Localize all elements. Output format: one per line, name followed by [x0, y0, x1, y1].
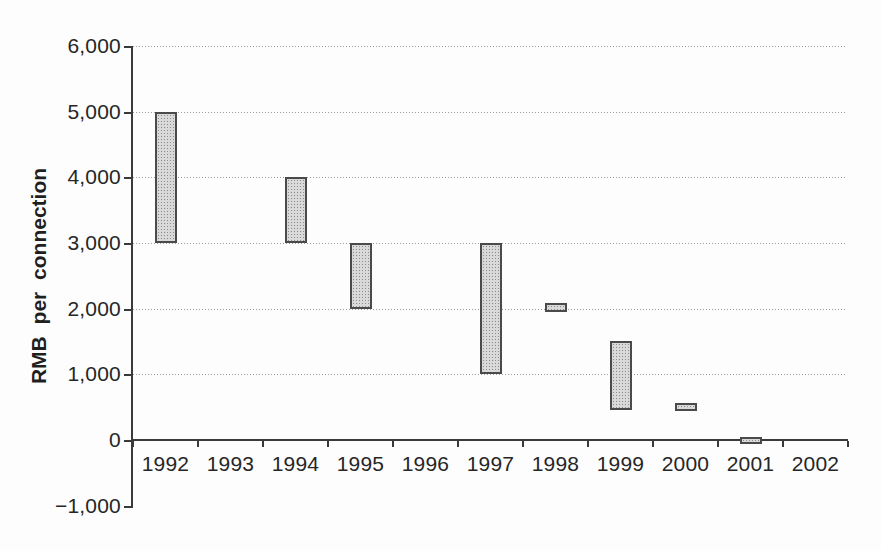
gridline-1000 — [133, 374, 847, 375]
y-tick-0 — [124, 440, 131, 442]
x-tick-2 — [262, 441, 264, 447]
x-tick-label-2002: 2002 — [783, 452, 848, 476]
bar-1995 — [350, 243, 372, 309]
x-tick-label-1997: 1997 — [458, 452, 523, 476]
x-tick-label-2000: 2000 — [653, 452, 718, 476]
bar-1992 — [155, 112, 177, 243]
bar-1998 — [545, 303, 567, 312]
bar-1999 — [610, 341, 632, 410]
y-tick-label-6000: 6,000 — [25, 34, 121, 58]
bar-2001 — [740, 437, 762, 444]
x-tick-label-1996: 1996 — [393, 452, 458, 476]
x-tick-3 — [327, 441, 329, 447]
bar-1997 — [480, 243, 502, 374]
x-tick-label-1998: 1998 — [523, 452, 588, 476]
x-tick-9 — [717, 441, 719, 447]
y-tick-5000 — [124, 112, 131, 114]
gridline-6000 — [133, 46, 847, 47]
x-tick-label-1992: 1992 — [133, 452, 198, 476]
y-tick-2000 — [124, 309, 131, 311]
x-tick-label-1995: 1995 — [328, 452, 393, 476]
chart-plot-area: −1,00001,0002,0003,0004,0005,0006,000 19… — [0, 0, 881, 551]
x-tick-label-1993: 1993 — [198, 452, 263, 476]
y-tick-label--1000: −1,000 — [25, 494, 121, 518]
x-tick-8 — [652, 441, 654, 447]
bar-1994 — [285, 177, 307, 243]
x-tick-5 — [457, 441, 459, 447]
x-tick-7 — [587, 441, 589, 447]
y-tick-1000 — [124, 374, 131, 376]
y-tick-6000 — [124, 46, 131, 48]
x-tick-label-2001: 2001 — [718, 452, 783, 476]
y-tick--1000 — [124, 506, 131, 508]
x-tick-10 — [782, 441, 784, 447]
x-tick-label-1999: 1999 — [588, 452, 653, 476]
gridline-4000 — [133, 177, 847, 178]
x-tick-1 — [197, 441, 199, 447]
gridline-5000 — [133, 112, 847, 113]
x-tick-4 — [392, 441, 394, 447]
x-tick-0 — [132, 441, 134, 447]
y-tick-3000 — [124, 243, 131, 245]
x-tick-label-1994: 1994 — [263, 452, 328, 476]
bar-2000 — [675, 403, 697, 411]
x-tick-11 — [847, 441, 849, 447]
chart-figure: −1,00001,0002,0003,0004,0005,0006,000 19… — [0, 0, 881, 551]
x-tick-6 — [522, 441, 524, 447]
y-axis-title: RMB per connection — [26, 76, 52, 476]
y-tick-4000 — [124, 177, 131, 179]
